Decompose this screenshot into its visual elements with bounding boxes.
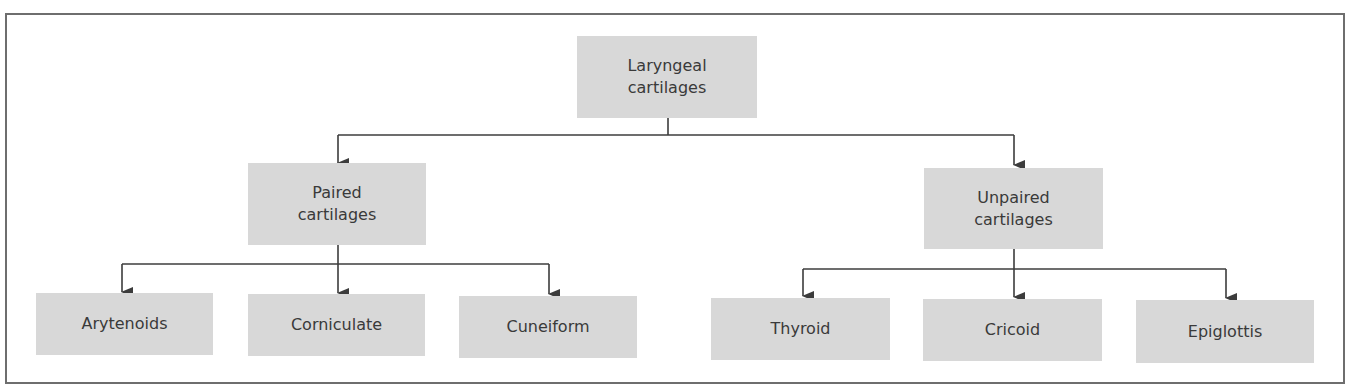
node-label-line2: cartilages [298,204,376,226]
node-epiglottis: Epiglottis [1136,300,1314,363]
node-label: Cricoid [985,319,1040,341]
node-label-line1: Paired [298,182,376,204]
node-unpaired-cartilages: Unpaired cartilages [924,168,1103,249]
node-thyroid: Thyroid [711,298,890,360]
node-corniculate: Corniculate [248,294,425,356]
node-arytenoids: Arytenoids [36,293,213,355]
node-label: Epiglottis [1188,321,1262,343]
node-label: Corniculate [291,314,382,336]
node-cuneiform: Cuneiform [459,296,637,358]
node-label-line1: Unpaired [974,187,1052,209]
node-paired-cartilages: Paired cartilages [248,163,426,245]
node-label-line2: cartilages [974,209,1052,231]
node-label: Thyroid [771,318,831,340]
node-cricoid: Cricoid [923,299,1102,361]
node-laryngeal-cartilages: Laryngeal cartilages [577,36,757,118]
node-label-line1: Laryngeal [627,55,706,77]
node-label-line2: cartilages [627,77,706,99]
node-label: Arytenoids [82,313,168,335]
node-label: Cuneiform [506,316,589,338]
